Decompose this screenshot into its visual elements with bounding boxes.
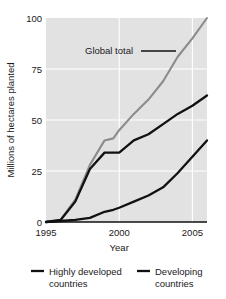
y-tick-label-0: 0 <box>37 217 42 228</box>
line-chart-figure: Global total 100 75 50 25 0 1995 2000 20… <box>0 0 226 299</box>
y-tick-label-75: 75 <box>31 64 42 75</box>
legend-label-highly-developed-line1: Highly developed <box>49 266 122 277</box>
legend-label-developing-line2: countries <box>155 278 194 289</box>
x-tick-label-1995: 1995 <box>35 227 56 238</box>
x-tick-label-2000: 2000 <box>109 227 130 238</box>
annotation-global-total-label: Global total <box>85 45 133 56</box>
y-tick-label-100: 100 <box>26 13 42 24</box>
x-tick-label-2005: 2005 <box>182 227 203 238</box>
y-tick-label-50: 50 <box>31 115 42 126</box>
legend-label-developing-line1: Developing <box>155 266 203 277</box>
y-tick-label-25: 25 <box>31 166 42 177</box>
y-axis-title: Millions of hectares planted <box>5 62 16 177</box>
legend-label-highly-developed-line2: countries <box>49 278 88 289</box>
x-axis-title: Year <box>110 242 129 253</box>
